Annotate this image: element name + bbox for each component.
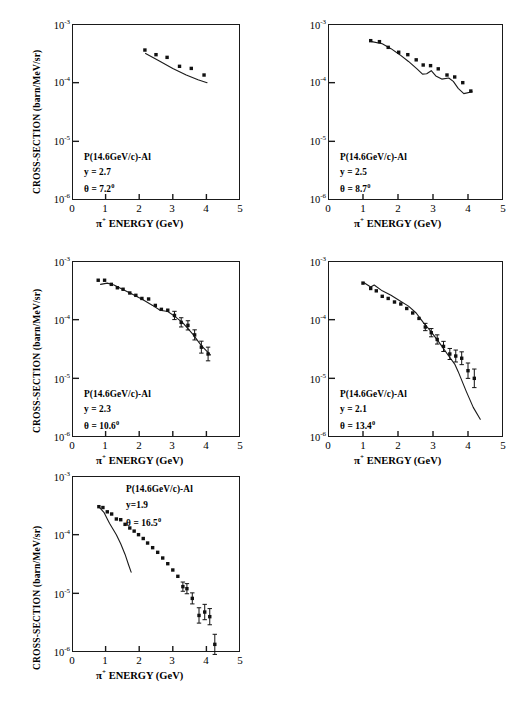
x-tick-label: 2: [391, 202, 405, 214]
y-tick-label: 10-4: [296, 313, 326, 326]
plot-canvas: [72, 476, 240, 652]
annotation-rapidity: y = 2.1: [340, 404, 367, 414]
plus-superscript: +: [360, 453, 364, 461]
y-tick-label: 10-5: [40, 587, 70, 600]
x-tick-label: 3: [165, 654, 179, 666]
y-tick-label: 10-4: [40, 313, 70, 326]
y-tick-label: 10-4: [296, 75, 326, 88]
x-tick-label: 4: [199, 654, 213, 666]
x-tick-label: 1: [98, 654, 112, 666]
x-tick-label: 0: [65, 202, 79, 214]
x-tick-label: 2: [391, 439, 405, 451]
annotation-reaction: P(14.6GeV/c)-Al: [340, 389, 407, 399]
x-tick-label: 1: [98, 202, 112, 214]
x-axis-title: π+ ENERGY (GeV): [354, 453, 441, 466]
y-tick-label: 10-5: [296, 372, 326, 385]
x-tick-label: 1: [98, 439, 112, 451]
x-tick-label: 5: [233, 202, 247, 214]
x-tick-label: 3: [426, 439, 440, 451]
x-axis-title-rest: ENERGY (GeV): [109, 455, 184, 466]
x-tick-label: 5: [496, 439, 510, 451]
plus-superscript: +: [102, 216, 106, 224]
x-tick-label: 4: [461, 439, 475, 451]
annotation-rapidity: y = 2.3: [84, 404, 111, 414]
plus-superscript: +: [102, 453, 106, 461]
x-tick-label: 2: [132, 202, 146, 214]
x-axis-title: π+ ENERGY (GeV): [354, 216, 441, 229]
x-tick-label: 5: [496, 202, 510, 214]
annotation-angle: θ = 8.70: [340, 182, 370, 194]
x-tick-label: 0: [65, 439, 79, 451]
x-tick-label: 3: [165, 439, 179, 451]
x-tick-label: 2: [132, 439, 146, 451]
plus-superscript: +: [360, 216, 364, 224]
panel-y-2-5: 10-3 10-4 10-5 10-6 0 1 2 3 4 5 π+ ENERG…: [258, 0, 519, 235]
x-tick-label: 0: [65, 654, 79, 666]
annotation-rapidity: y=1.9: [126, 500, 148, 510]
y-tick-label: 10-3: [296, 255, 326, 268]
y-tick-label: 10-3: [40, 255, 70, 268]
y-axis-title: CROSS-SECTION (barn/MeV/sr): [32, 283, 42, 433]
x-axis-title-rest: ENERGY (GeV): [367, 455, 442, 466]
x-tick-label: 4: [461, 202, 475, 214]
x-tick-label: 3: [165, 202, 179, 214]
annotation-reaction: P(14.6GeV/c)-Al: [84, 152, 151, 162]
panel-y-2-3: CROSS-SECTION (barn/MeV/sr) 10-3 10-4 10…: [0, 235, 260, 475]
x-axis-title: π+ ENERGY (GeV): [96, 453, 183, 466]
y-tick-label: 10-3: [296, 18, 326, 31]
x-tick-label: 4: [199, 439, 213, 451]
x-tick-label: 1: [356, 439, 370, 451]
x-tick-label: 5: [233, 439, 247, 451]
x-axis-title: π+ ENERGY (GeV): [96, 668, 183, 681]
y-tick-label: 10-5: [40, 134, 70, 147]
x-tick-label: 5: [233, 654, 247, 666]
x-tick-label: 3: [426, 202, 440, 214]
annotation-rapidity: y = 2.5: [340, 167, 367, 177]
annotation-angle: θ = 10.60: [84, 419, 119, 431]
x-tick-label: 4: [199, 202, 213, 214]
y-tick-label: 10-3: [40, 18, 70, 31]
x-axis-title-rest: ENERGY (GeV): [367, 218, 442, 229]
panel-y-1-9: CROSS-SECTION (barn/MeV/sr) 10-3 10-4 10…: [0, 472, 280, 713]
x-axis-title: π+ ENERGY (GeV): [96, 216, 183, 229]
annotation-reaction: P(14.6GeV/c)-Al: [84, 389, 151, 399]
y-tick-label: 10-3: [40, 470, 70, 483]
x-axis-title-rest: ENERGY (GeV): [109, 670, 184, 681]
annotation-angle: θ = 16.50: [126, 516, 161, 528]
panel-y-2-7: CROSS-SECTION (barn/MeV/sr) 10-3 10-4 10…: [0, 0, 260, 235]
panel-y-2-1: 10-3 10-4 10-5 10-6 0 1 2 3 4 5 π+ ENERG…: [258, 235, 519, 475]
y-axis-title: CROSS-SECTION (barn/MeV/sr): [32, 44, 42, 194]
y-tick-label: 10-5: [40, 372, 70, 385]
y-tick-label: 10-5: [296, 134, 326, 147]
annotation-angle: θ = 13.40: [340, 419, 375, 431]
x-tick-label: 2: [132, 654, 146, 666]
x-tick-label: 0: [321, 439, 335, 451]
y-tick-label: 10-4: [40, 75, 70, 88]
annotation-angle: θ = 7.20: [84, 182, 114, 194]
x-axis-title-rest: ENERGY (GeV): [109, 218, 184, 229]
plus-superscript: +: [102, 668, 106, 676]
annotation-reaction: P(14.6GeV/c)-Al: [126, 484, 193, 494]
annotation-reaction: P(14.6GeV/c)-Al: [340, 152, 407, 162]
x-tick-label: 0: [321, 202, 335, 214]
x-tick-label: 1: [356, 202, 370, 214]
annotation-rapidity: y = 2.7: [84, 167, 111, 177]
y-tick-label: 10-4: [40, 528, 70, 541]
